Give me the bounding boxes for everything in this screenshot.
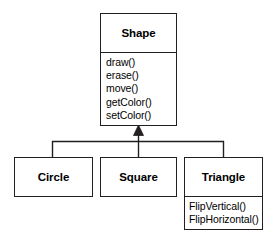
class-name-circle: Circle (38, 171, 69, 183)
operation-item: FlipHorizontal() (189, 213, 262, 226)
operation-item: getColor() (106, 96, 176, 109)
class-box-square[interactable]: Square (100, 157, 177, 197)
class-name-square: Square (119, 171, 157, 183)
operation-item: erase() (106, 69, 176, 82)
generalization-arrowhead-icon (134, 125, 144, 136)
operation-item: move() (106, 82, 176, 95)
class-name-triangle: Triangle (202, 171, 245, 183)
class-box-shape[interactable]: Shape draw() erase() move() getColor() s… (100, 13, 177, 126)
operation-item: FlipVertical() (189, 200, 262, 213)
operations-compartment-triangle: FlipVertical() FlipHorizontal() (185, 196, 262, 229)
class-name-compartment-triangle: Triangle (185, 158, 262, 196)
class-box-triangle[interactable]: Triangle FlipVertical() FlipHorizontal() (184, 157, 263, 230)
uml-class-diagram: Shape draw() erase() move() getColor() s… (0, 0, 276, 243)
operation-item: draw() (106, 56, 176, 69)
class-name-compartment-shape: Shape (101, 14, 176, 52)
class-name-shape: Shape (121, 27, 155, 39)
class-box-circle[interactable]: Circle (14, 157, 93, 197)
class-name-compartment-circle: Circle (15, 158, 92, 196)
operation-item: setColor() (106, 109, 176, 122)
operations-compartment-shape: draw() erase() move() getColor() setColo… (101, 52, 176, 125)
class-name-compartment-square: Square (101, 158, 176, 196)
